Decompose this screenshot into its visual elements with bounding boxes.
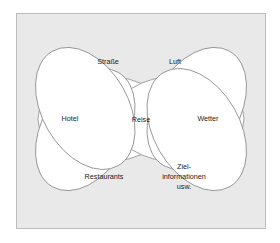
label-wetter: Wetter bbox=[197, 114, 219, 123]
label-zielinformationen-line-1: Ziel- bbox=[177, 162, 192, 171]
diagram-screenshot: Straße Luft Hotel Wetter Restaurants Zie… bbox=[0, 0, 280, 243]
label-reise: Reise bbox=[132, 115, 150, 124]
venn-rosette-diagram: Straße Luft Hotel Wetter Restaurants Zie… bbox=[0, 0, 280, 243]
label-hotel: Hotel bbox=[62, 114, 79, 123]
label-zielinformationen-line-3: usw. bbox=[177, 182, 191, 191]
label-luft: Luft bbox=[169, 57, 181, 66]
label-zielinformationen-line-2: informationen bbox=[162, 172, 206, 181]
label-restaurants: Restaurants bbox=[85, 172, 124, 181]
label-strasse: Straße bbox=[97, 57, 119, 66]
